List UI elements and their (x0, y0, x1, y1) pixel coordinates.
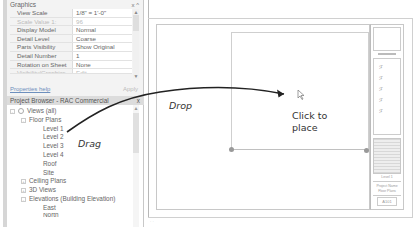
click-to-place-annotation-line1: Click to (292, 110, 327, 121)
tree-item-elevations[interactable]: - Elevations (Building Elevation) (21, 195, 115, 204)
drag-annotation: Drag (78, 138, 101, 149)
prop-row-scale-value: Scale Value 1: 96 (10, 18, 132, 27)
scroll-thumb[interactable] (133, 15, 139, 31)
apply-button[interactable]: Apply (123, 86, 138, 92)
prop-row-visibility-graphics[interactable]: Visibility/Graphics ... Edit... (10, 69, 132, 74)
drop-annotation: Drop (169, 100, 192, 111)
prop-key: Scale Value 1: (10, 18, 72, 26)
divider (373, 195, 401, 196)
views-icon (18, 108, 24, 114)
click-to-place-annotation-line2: place (292, 122, 318, 133)
project-browser-tree: - Views (all) - Floor Plans Level 1 Leve… (7, 105, 144, 227)
prop-row-view-scale[interactable]: View Scale 1/8" = 1'-0" (10, 9, 132, 18)
graphics-section-header[interactable]: Graphics x ^ (7, 0, 143, 9)
project-browser-title: Project Browser - RAC Commercial (10, 96, 109, 105)
title-block: ℱ ℱ ℱ ℱ ℱ Level 1 Project Name Floor Pla… (370, 24, 404, 210)
tree-item-north[interactable]: North (43, 213, 59, 218)
prop-key: Rotation on Sheet (10, 61, 72, 69)
sheet-corner-mark: · · (150, 219, 154, 224)
tree-item-label: Level 2 (43, 133, 64, 142)
prop-key: Visibility/Graphics ... (10, 69, 72, 73)
prop-key: View Scale (10, 9, 72, 17)
prop-value[interactable]: 1 (72, 52, 132, 60)
collapse-toggle-icon[interactable]: - (21, 197, 26, 202)
expand-toggle-icon[interactable]: + (21, 188, 26, 193)
consultant-glyph-icon: ℱ (379, 109, 384, 114)
tree-item-site[interactable]: Site (43, 169, 54, 178)
close-icon[interactable]: x (137, 96, 140, 105)
title-block-logo-area (373, 27, 401, 51)
prop-row-parts-visibility[interactable]: Parts Visibility Show Original (10, 43, 132, 52)
prop-value: 96 (72, 18, 132, 26)
prop-value[interactable]: Coarse (72, 35, 132, 43)
consultant-glyph-icon: ℱ (379, 87, 384, 92)
title-block-label: Level 1 (371, 175, 403, 179)
properties-help-link[interactable]: Properties help (10, 86, 50, 92)
tree-item-label: Ceiling Plans (29, 177, 66, 186)
consultant-glyph-icon: ℱ (379, 76, 384, 81)
viewport-title-line (231, 149, 367, 150)
consultant-glyph-icon: ℱ (379, 65, 384, 70)
tree-item-label: Views (all) (27, 107, 56, 116)
tree-item-roof[interactable]: Roof (43, 160, 57, 169)
tree-item-label: 3D Views (29, 186, 56, 195)
properties-palette: Graphics x ^ View Scale 1/8" = 1'-0" Sca… (7, 0, 144, 96)
scroll-up-icon[interactable]: ▲ (133, 105, 139, 111)
prop-row-rotation-on-sheet[interactable]: Rotation on Sheet None (10, 61, 132, 70)
project-browser-header: Project Browser - RAC Commercial x (7, 96, 144, 105)
tree-item-3d-views[interactable]: + 3D Views (21, 186, 56, 195)
properties-footer: Properties help Apply (10, 86, 138, 92)
prop-key: Display Model (10, 26, 72, 34)
title-block-project-name: Project Name (371, 184, 403, 188)
prop-key: Detail Number (10, 52, 72, 60)
tree-item-label: North (43, 213, 59, 218)
collapse-toggle-icon[interactable]: - (21, 118, 26, 123)
prop-row-display-model[interactable]: Display Model Normal (10, 26, 132, 35)
tree-item-label: Level 3 (43, 142, 64, 151)
divider (373, 181, 401, 182)
scroll-thumb[interactable] (133, 113, 139, 153)
tree-item-level-4[interactable]: Level 4 (43, 151, 64, 160)
prop-row-detail-number[interactable]: Detail Number 1 (10, 52, 132, 61)
edit-button[interactable]: Edit... (72, 69, 132, 73)
prop-key: Detail Level (10, 35, 72, 43)
tree-item-label: Site (43, 169, 54, 178)
prop-row-detail-level[interactable]: Detail Level Coarse (10, 35, 132, 44)
tree-item-label: Floor Plans (29, 116, 61, 125)
graphics-section-title: Graphics (10, 1, 36, 8)
tree-item-level-2[interactable]: Level 2 (43, 133, 64, 142)
tree-item-east[interactable]: East (43, 204, 56, 213)
tree-item-label: Elevations (Building Elevation) (29, 195, 115, 204)
tree-item-level-1[interactable]: Level 1 (43, 125, 64, 134)
tree-item-label: Roof (43, 160, 57, 169)
title-block-sheet-number: A101 (377, 197, 397, 206)
viewport-handle-right[interactable] (364, 148, 369, 153)
properties-scrollbar[interactable]: ▲ ▼ (133, 9, 139, 79)
title-block-sheet-name: Floor Plans (371, 189, 403, 193)
properties-table: View Scale 1/8" = 1'-0" Scale Value 1: 9… (10, 9, 132, 74)
prop-value[interactable]: Normal (72, 26, 132, 34)
tree-item-floor-plans[interactable]: - Floor Plans (21, 116, 61, 125)
title-block-consultants: ℱ ℱ ℱ ℱ ℱ (373, 58, 401, 135)
tree-item-views-all[interactable]: - Views (all) (10, 107, 56, 116)
title-block-revision-grid (373, 138, 401, 174)
prop-value[interactable]: 1/8" = 1'-0" (72, 9, 132, 17)
consultant-glyph-icon: ℱ (379, 98, 384, 103)
expand-toggle-icon[interactable]: + (21, 179, 26, 184)
tree-item-label: Level 1 (43, 125, 64, 134)
tree-item-label: East (43, 204, 56, 213)
prop-value[interactable]: None (72, 61, 132, 69)
tree-item-ceiling-plans[interactable]: + Ceiling Plans (21, 177, 66, 186)
viewport-handle-left[interactable] (229, 147, 234, 152)
mouse-cursor-icon (297, 90, 305, 100)
left-panels: Graphics x ^ View Scale 1/8" = 1'-0" Sca… (0, 0, 145, 227)
tree-item-level-3[interactable]: Level 3 (43, 142, 64, 151)
scroll-down-icon[interactable]: ▼ (133, 73, 139, 79)
tree-item-label: Level 4 (43, 151, 64, 160)
prop-key: Parts Visibility (10, 43, 72, 51)
collapse-icon[interactable]: x ^ (132, 2, 139, 8)
browser-scrollbar[interactable]: ▲ (133, 105, 139, 227)
collapse-toggle-icon[interactable]: - (10, 109, 15, 114)
prop-value[interactable]: Show Original (72, 43, 132, 51)
title-block-bar (378, 53, 396, 55)
